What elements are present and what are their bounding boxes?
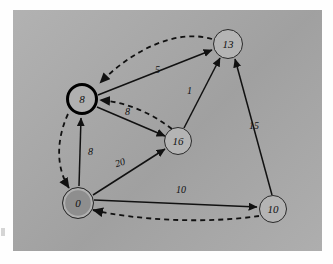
graph-node-8-label: 8: [79, 93, 85, 105]
graph-node-0[interactable]: 0: [62, 187, 94, 219]
edge-weight-8-16: 8: [125, 106, 130, 117]
edge-weight-0-10: 10: [176, 184, 186, 195]
edge-0-to-8: [79, 118, 81, 186]
dashed-edge-8-to-0: [59, 114, 69, 188]
edge-8-to-16: [97, 107, 165, 136]
figure-canvas: 13 8 16 0 10 8 20 10 8 1 5 15: [0, 0, 333, 264]
graph-node-8[interactable]: 8: [66, 83, 98, 115]
graph-node-16-label: 16: [173, 135, 184, 147]
graph-node-13-label: 13: [223, 38, 234, 50]
edge-weight-8-13: 5: [155, 64, 160, 75]
graph-node-16[interactable]: 16: [164, 127, 192, 155]
dashed-edge-10-to-0: [93, 210, 259, 220]
edge-weight-0-8: 8: [88, 146, 93, 157]
edge-0-to-16: [93, 149, 165, 195]
edge-weight-16-13: 1: [187, 85, 192, 96]
graph-node-0-label: 0: [75, 197, 81, 209]
graph-node-10-label: 10: [268, 203, 279, 215]
edge-weight-10-13: 15: [249, 120, 259, 131]
graph-node-10[interactable]: 10: [259, 195, 287, 223]
edge-0-to-10: [94, 200, 257, 207]
dashed-edge-13-to-8: [100, 36, 212, 83]
graph-node-13[interactable]: 13: [213, 29, 243, 59]
dashed-edge-16-to-8: [100, 100, 172, 129]
